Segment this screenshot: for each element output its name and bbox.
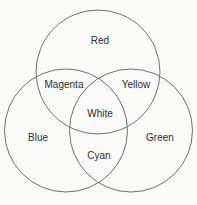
yellow-overlap-label: Yellow — [122, 79, 151, 90]
white-overlap-label: White — [87, 108, 113, 119]
green-set-label: Green — [146, 132, 174, 143]
venn-diagram-figure: Red Blue Green Magenta Yellow White Cyan — [0, 0, 197, 205]
cyan-overlap-label: Cyan — [87, 150, 110, 161]
blue-set-label: Blue — [28, 132, 48, 143]
venn-diagram-canvas: Red Blue Green Magenta Yellow White Cyan — [0, 0, 197, 205]
red-set-label: Red — [91, 35, 109, 46]
magenta-overlap-label: Magenta — [45, 79, 84, 90]
